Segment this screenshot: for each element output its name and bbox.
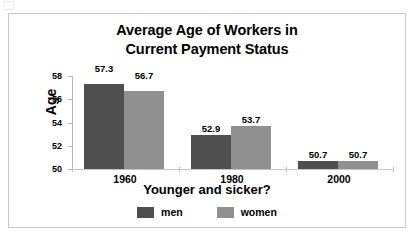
y-tick-label-56: 56 (36, 94, 62, 104)
y-tick-label-54: 54 (36, 118, 62, 128)
legend-label-women: women (241, 206, 277, 218)
bar-1980-men[interactable] (191, 135, 231, 169)
bar-group-1980: 52.9 53.7 1980 (179, 76, 286, 169)
bar-value-1960-men: 57.3 (95, 63, 114, 74)
scan-artifact (4, 1, 14, 10)
bar-value-2000-women: 50.7 (349, 149, 368, 160)
chart-title-line-1: Average Age of Workers in (9, 21, 405, 40)
x-tick-mark-3 (393, 167, 394, 172)
legend-swatch-women-icon (217, 207, 234, 218)
y-tick-label-50: 50 (36, 164, 62, 174)
bar-1960-men[interactable] (84, 84, 124, 169)
y-tick-label-58: 58 (36, 71, 62, 81)
bar-value-1960-women: 56.7 (135, 70, 154, 81)
chart-frame: Average Age of Workers in Current Paymen… (8, 13, 406, 228)
bar-1980-women[interactable] (231, 126, 271, 169)
plot-area: Age 58 56 54 52 50 57.3 56.7 1960 (64, 76, 394, 169)
legend-item-women[interactable]: women (217, 206, 277, 218)
bar-group-1960: 57.3 56.7 1960 (72, 76, 179, 169)
legend-label-men: men (161, 206, 183, 218)
legend-item-men[interactable]: men (137, 206, 183, 218)
y-tick-label-52: 52 (36, 141, 62, 151)
bar-value-1980-women: 53.7 (242, 114, 261, 125)
bar-value-1980-men: 52.9 (202, 123, 221, 134)
bar-2000-men[interactable] (298, 161, 338, 169)
x-axis-title: Younger and sicker? (9, 182, 405, 197)
bar-group-2000: 50.7 50.7 2000 (286, 76, 393, 169)
chart-title: Average Age of Workers in Current Paymen… (9, 21, 405, 59)
bar-2000-women[interactable] (338, 161, 378, 169)
x-axis-line (72, 169, 394, 170)
bar-1960-women[interactable] (124, 91, 164, 169)
chart-legend: men women (9, 206, 405, 218)
bar-value-2000-men: 50.7 (309, 149, 328, 160)
legend-swatch-men-icon (137, 207, 154, 218)
chart-title-line-2: Current Payment Status (9, 40, 405, 59)
